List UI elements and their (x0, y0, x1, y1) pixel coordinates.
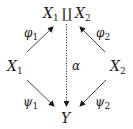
label-phi2: φ2 (96, 27, 110, 42)
label-phi1: φ1 (24, 27, 38, 42)
psi1-sub: 1 (32, 101, 38, 111)
alpha-label: α (72, 59, 80, 73)
label-alpha: α (72, 60, 80, 72)
coproduct-x1-base: X (43, 5, 53, 21)
commutative-diagram: X1∐X2 X1 X2 Y φ1 φ2 α ψ1 ψ2 (0, 0, 133, 129)
coproduct-x2-sub: 2 (85, 13, 91, 23)
psi2-sub: 2 (104, 101, 110, 111)
y-base: Y (61, 110, 70, 126)
x2-base: X (110, 58, 120, 74)
x1-sub: 1 (17, 66, 23, 76)
phi1-sub: 1 (32, 32, 38, 42)
label-psi1: ψ1 (23, 96, 38, 111)
node-x2: X2 (110, 59, 126, 76)
x2-sub: 2 (120, 66, 126, 76)
psi2-base: ψ (95, 95, 104, 109)
node-x1: X1 (7, 59, 23, 76)
coproduct-x1-sub: 1 (53, 13, 59, 23)
label-psi2: ψ2 (95, 96, 110, 111)
psi1-base: ψ (23, 95, 32, 109)
phi2-sub: 2 (104, 32, 110, 42)
coproduct-symbol: ∐ (62, 6, 72, 21)
x1-base: X (7, 58, 17, 74)
coproduct-x2-base: X (75, 5, 85, 21)
node-y: Y (61, 111, 70, 125)
node-coproduct: X1∐X2 (43, 6, 91, 23)
